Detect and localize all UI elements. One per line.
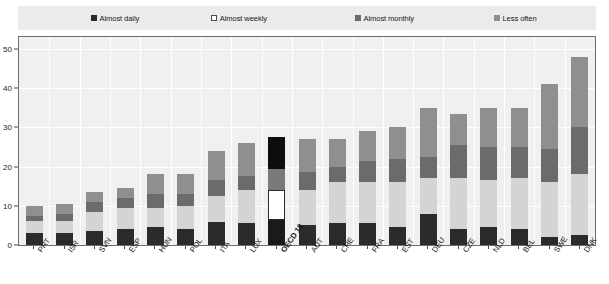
bar-segment-less_often[interactable]	[450, 114, 467, 145]
bar-segment-almost_monthly[interactable]	[86, 202, 103, 212]
bar-stack[interactable]	[389, 127, 406, 245]
bar-stack[interactable]	[329, 139, 346, 245]
bar-segment-less_often[interactable]	[177, 174, 194, 194]
bar-segment-less_often[interactable]	[420, 108, 437, 157]
gridline-horizontal	[19, 127, 595, 128]
y-axis-tick-label: 10	[3, 201, 12, 210]
bar-segment-less_often[interactable]	[86, 192, 103, 202]
bar-segment-almost_weekly[interactable]	[208, 196, 225, 222]
bar-stack[interactable]	[420, 108, 437, 245]
x-axis-tick-mark-icon	[64, 246, 65, 249]
bar-stack[interactable]	[450, 114, 467, 245]
bar-segment-less_often[interactable]	[147, 174, 164, 194]
legend-item-almost_daily[interactable]: Almost daily	[91, 14, 139, 23]
bar-segment-less_often[interactable]	[480, 108, 497, 147]
bar-segment-almost_weekly[interactable]	[329, 182, 346, 223]
bar-segment-less_often[interactable]	[117, 188, 134, 198]
bar-segment-almost_weekly[interactable]	[26, 221, 43, 233]
bar-stack[interactable]	[177, 174, 194, 245]
bar-stack[interactable]	[238, 143, 255, 245]
bar-segment-almost_monthly[interactable]	[571, 127, 588, 174]
legend-item-almost_monthly[interactable]: Almost monthly	[355, 14, 414, 23]
bar-segment-less_often[interactable]	[299, 139, 316, 172]
gridline-vertical	[171, 37, 172, 245]
legend-label: Less often	[503, 14, 537, 23]
bar-segment-less_often[interactable]	[26, 206, 43, 216]
bar-segment-almost_weekly[interactable]	[177, 206, 194, 230]
bar-segment-almost_monthly[interactable]	[268, 169, 285, 191]
bar-stack[interactable]	[480, 108, 497, 245]
bar-stack[interactable]	[147, 174, 164, 245]
bar-segment-almost_monthly[interactable]	[56, 214, 73, 222]
legend-swatch-almost_monthly-icon	[355, 15, 361, 21]
bar-segment-almost_weekly[interactable]	[511, 178, 528, 229]
bar-segment-almost_weekly[interactable]	[86, 212, 103, 232]
bar-segment-almost_weekly[interactable]	[238, 190, 255, 223]
x-axis-tick-mark-icon	[488, 246, 489, 249]
bar-segment-less_often[interactable]	[571, 57, 588, 128]
x-axis-tick-mark-icon	[367, 246, 368, 249]
bar-segment-almost_monthly[interactable]	[117, 198, 134, 208]
bar-segment-almost_weekly[interactable]	[480, 180, 497, 227]
bar-segment-almost_monthly[interactable]	[511, 147, 528, 178]
bar-stack[interactable]	[26, 206, 43, 245]
bar-stack[interactable]	[571, 57, 588, 245]
x-axis: PRTISRSVNESPHUNPOLITALUXOECD 18AUTCHEFRA…	[18, 246, 596, 284]
gridline-vertical	[262, 37, 263, 245]
bar-segment-almost_monthly[interactable]	[208, 180, 225, 196]
bar-segment-almost_weekly[interactable]	[56, 221, 73, 233]
gridline-vertical	[140, 37, 141, 245]
bar-segment-less_often[interactable]	[56, 204, 73, 214]
bar-segment-less_often[interactable]	[359, 131, 376, 160]
bar-segment-less_often[interactable]	[329, 139, 346, 167]
y-axis-tick-mark-icon	[14, 166, 18, 167]
bar-segment-less_often[interactable]	[541, 84, 558, 149]
bar-segment-almost_weekly[interactable]	[117, 208, 134, 230]
bar-segment-almost_monthly[interactable]	[329, 167, 346, 183]
bar-stack[interactable]	[117, 188, 134, 245]
bar-segment-almost_weekly[interactable]	[147, 208, 164, 228]
bar-segment-less_often[interactable]	[511, 108, 528, 147]
y-axis-tick-mark-icon	[14, 48, 18, 49]
x-axis-tick-mark-icon	[124, 246, 125, 249]
bar-segment-almost_monthly[interactable]	[389, 159, 406, 183]
bar-segment-almost_weekly[interactable]	[389, 182, 406, 227]
bar-stack[interactable]	[511, 108, 528, 245]
bar-stack[interactable]	[86, 192, 103, 245]
bar-segment-almost_weekly[interactable]	[299, 190, 316, 225]
gridline-vertical	[353, 37, 354, 245]
legend-item-less_often[interactable]: Less often	[494, 14, 537, 23]
bar-segment-almost_weekly[interactable]	[571, 174, 588, 235]
bar-segment-less_often[interactable]	[268, 137, 285, 168]
bar-segment-almost_weekly[interactable]	[541, 182, 558, 237]
gridline-vertical	[565, 37, 566, 245]
bar-stack[interactable]	[541, 84, 558, 245]
bar-segment-less_often[interactable]	[389, 127, 406, 158]
bar-segment-less_often[interactable]	[238, 143, 255, 176]
bar-stack[interactable]	[208, 151, 225, 245]
legend-swatch-almost_daily-icon	[91, 15, 97, 21]
legend-item-almost_weekly[interactable]: Almost weekly	[211, 14, 267, 23]
bar-segment-almost_weekly[interactable]	[420, 178, 437, 213]
bar-segment-almost_monthly[interactable]	[450, 145, 467, 178]
bar-segment-almost_monthly[interactable]	[147, 194, 164, 208]
bar-stack[interactable]	[359, 131, 376, 245]
bar-segment-almost_monthly[interactable]	[177, 194, 194, 206]
bar-stack[interactable]	[56, 204, 73, 245]
bar-segment-almost_weekly[interactable]	[450, 178, 467, 229]
y-axis-tick-mark-icon	[14, 127, 18, 128]
bar-segment-almost_weekly[interactable]	[359, 182, 376, 223]
gridline-vertical	[383, 37, 384, 245]
bar-segment-almost_daily[interactable]	[268, 220, 285, 246]
bar-segment-almost_daily[interactable]	[420, 214, 437, 245]
bar-segment-almost_monthly[interactable]	[359, 161, 376, 183]
bar-segment-almost_weekly[interactable]	[268, 190, 285, 219]
gridline-horizontal	[19, 49, 595, 50]
bar-segment-almost_monthly[interactable]	[480, 147, 497, 180]
bar-segment-less_often[interactable]	[208, 151, 225, 180]
bar-segment-almost_monthly[interactable]	[541, 149, 558, 182]
bar-segment-almost_monthly[interactable]	[238, 176, 255, 190]
bar-segment-almost_monthly[interactable]	[420, 157, 437, 179]
bar-stack[interactable]	[268, 137, 285, 245]
bar-segment-almost_monthly[interactable]	[299, 172, 316, 190]
